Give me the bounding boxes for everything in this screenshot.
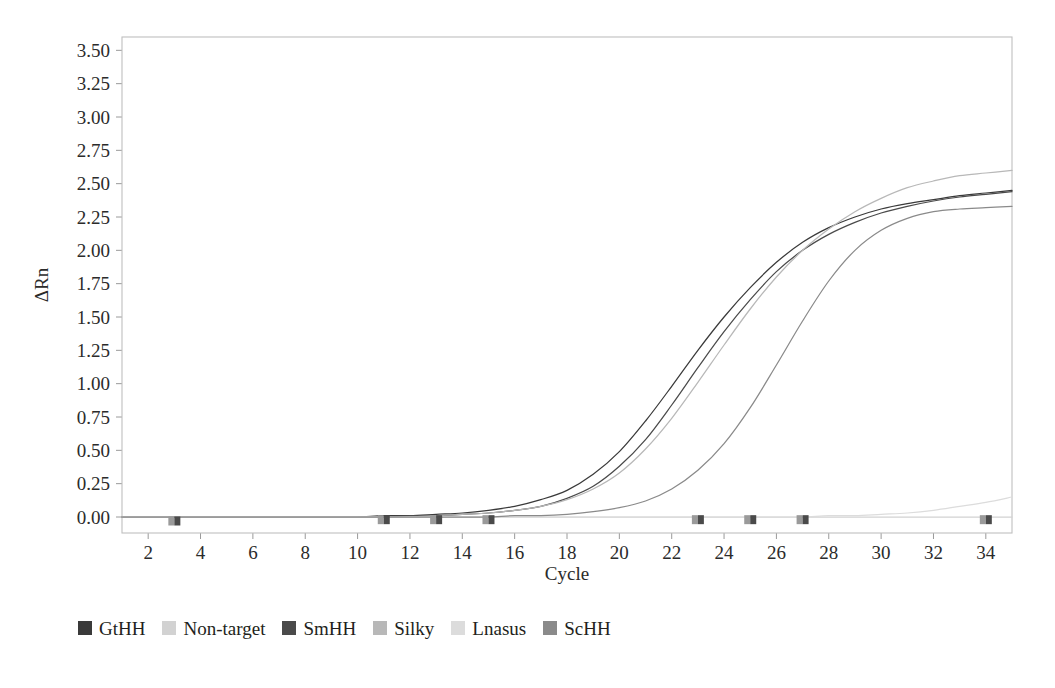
marker-left-half [744, 515, 750, 524]
legend-swatch-icon [162, 621, 176, 635]
y-axis-title: ΔRn [31, 267, 52, 302]
marker-right-half [750, 515, 756, 524]
marker-right-half [384, 515, 390, 524]
x-axis-tick-label: 22 [662, 542, 681, 563]
plot-area-wrapper: 0.000.250.500.751.001.251.501.752.002.25… [0, 0, 1055, 688]
x-axis-tick-label: 20 [610, 542, 629, 563]
marker-left-half [692, 515, 698, 524]
x-axis-tick-label: 32 [924, 542, 943, 563]
legend-label: Silky [394, 619, 434, 638]
x-axis-tick-label: 4 [196, 542, 206, 563]
baseline-marker [797, 515, 809, 524]
y-axis-tick-label: 0.00 [77, 507, 110, 528]
legend-swatch-icon [282, 621, 296, 635]
x-axis-tick-label: 8 [300, 542, 310, 563]
legend-item-non-target[interactable]: Non-target [162, 619, 265, 638]
marker-right-half [436, 515, 442, 524]
legend-label: GtHH [99, 619, 145, 638]
legend-swatch-icon [543, 621, 557, 635]
x-axis-tick-label: 26 [767, 542, 786, 563]
legend-item-lnasus[interactable]: Lnasus [451, 619, 526, 638]
x-axis-tick-label: 30 [872, 542, 891, 563]
x-axis-tick-label: 34 [976, 542, 996, 563]
baseline-marker [378, 515, 390, 524]
marker-right-half [986, 515, 992, 524]
y-axis-tick-label: 2.00 [77, 240, 110, 261]
baseline-marker [692, 515, 704, 524]
series-line-schh [122, 206, 1012, 517]
series-line-smhh [122, 192, 1012, 517]
x-axis-tick-group: 246810121416182022242628303234 [143, 533, 995, 563]
x-axis-title: Cycle [545, 563, 589, 584]
baseline-marker [744, 515, 756, 524]
legend-swatch-icon [451, 621, 465, 635]
y-axis-tick-label: 3.00 [77, 107, 110, 128]
baseline-marker [980, 515, 992, 524]
baseline-marker [168, 517, 180, 526]
x-axis-tick-label: 14 [453, 542, 473, 563]
x-axis-tick-label: 10 [348, 542, 367, 563]
marker-left-half [430, 515, 436, 524]
x-axis-tick-label: 28 [819, 542, 838, 563]
marker-right-half [803, 515, 809, 524]
x-axis-tick-label: 2 [143, 542, 153, 563]
legend-item-schh[interactable]: ScHH [543, 619, 610, 638]
y-axis-tick-label: 2.50 [77, 173, 110, 194]
marker-right-half [698, 515, 704, 524]
x-axis-tick-label: 12 [400, 542, 419, 563]
legend-label: Non-target [183, 619, 265, 638]
y-axis-tick-label: 1.25 [77, 340, 110, 361]
marker-left-half [168, 517, 174, 526]
y-axis-tick-label: 1.00 [77, 373, 110, 394]
legend-item-gthh[interactable]: GtHH [78, 619, 145, 638]
chart-legend: GtHHNon-targetSmHHSilkyLnasusScHH [78, 617, 628, 639]
y-axis-tick-label: 2.25 [77, 207, 110, 228]
x-axis-tick-label: 6 [248, 542, 258, 563]
x-axis-tick-label: 24 [715, 542, 735, 563]
series-line-gthh [122, 190, 1012, 517]
y-axis-tick-label: 0.75 [77, 407, 110, 428]
x-axis-tick-label: 18 [558, 542, 577, 563]
amplification-plot-figure: 0.000.250.500.751.001.251.501.752.002.25… [0, 0, 1055, 688]
data-series-group [122, 170, 1012, 517]
legend-item-smhh[interactable]: SmHH [282, 619, 356, 638]
y-axis-tick-label: 0.25 [77, 473, 110, 494]
chart-svg: 0.000.250.500.751.001.251.501.752.002.25… [0, 0, 1055, 688]
y-axis-tick-group: 0.000.250.500.751.001.251.501.752.002.25… [77, 40, 122, 528]
series-line-silky [122, 170, 1012, 517]
y-axis-tick-label: 3.50 [77, 40, 110, 61]
y-axis-tick-label: 1.75 [77, 273, 110, 294]
plot-frame [122, 37, 1012, 533]
x-axis-tick-label: 16 [505, 542, 524, 563]
legend-item-silky[interactable]: Silky [373, 619, 434, 638]
marker-left-half [378, 515, 384, 524]
y-axis-tick-label: 1.50 [77, 307, 110, 328]
legend-label: SmHH [303, 619, 356, 638]
baseline-marker [430, 515, 442, 524]
marker-left-half [797, 515, 803, 524]
marker-right-half [174, 517, 180, 526]
baseline-marker [482, 515, 494, 524]
legend-swatch-icon [78, 621, 92, 635]
legend-swatch-icon [373, 621, 387, 635]
marker-right-half [488, 515, 494, 524]
y-axis-tick-label: 3.25 [77, 73, 110, 94]
marker-left-half [482, 515, 488, 524]
legend-label: ScHH [564, 619, 610, 638]
legend-label: Lnasus [472, 619, 526, 638]
y-axis-tick-label: 0.50 [77, 440, 110, 461]
y-axis-tick-label: 2.75 [77, 140, 110, 161]
marker-left-half [980, 515, 986, 524]
